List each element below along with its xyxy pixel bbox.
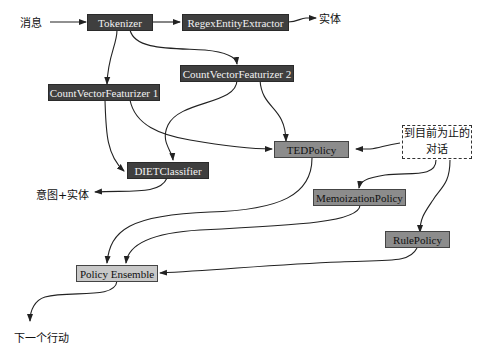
edge-conversation-ted (356, 143, 400, 149)
conversation-line-2: 对话 (426, 142, 448, 158)
rule-policy-node: RulePolicy (385, 231, 450, 248)
regex-entity-extractor-node: RegexEntityExtractor (182, 14, 289, 31)
entities-label: 实体 (319, 10, 341, 26)
edge-conversation-rule (420, 160, 450, 232)
memoization-policy-node: MemoizationPolicy (313, 189, 406, 206)
policy-ensemble-node: Policy Ensemble (76, 265, 158, 282)
edge-tokenizer-cvf1 (107, 30, 117, 84)
count-vector-featurizer-1-node: CountVectorFeaturizer 1 (48, 84, 160, 101)
edge-ensemble-nextaction (30, 281, 117, 321)
message-label: 消息 (20, 14, 42, 30)
edge-diet-intent (95, 178, 167, 192)
conversation-so-far-node: 到目前为止的 对话 (402, 125, 472, 159)
tokenizer-node: Tokenizer (87, 14, 153, 31)
conversation-line-1: 到目前为止的 (404, 126, 470, 142)
edge-cvf1-diet (105, 100, 124, 171)
edge-conversation-memo (359, 160, 436, 188)
ted-policy-node: TEDPolicy (274, 141, 349, 158)
edge-tokenizer-cvf2 (130, 30, 237, 64)
edge-memo-ensemble (126, 205, 360, 263)
edges-layer (0, 0, 485, 353)
edge-cvf2-diet (165, 80, 237, 160)
intent-entities-label: 意图+实体 (36, 186, 89, 202)
edge-cvf1-ted (130, 100, 272, 149)
edge-rule-ensemble (160, 248, 417, 273)
next-action-label: 下一个行动 (14, 329, 69, 345)
edge-regex-entities (288, 18, 316, 22)
diet-classifier-node: DIETClassifier (127, 162, 209, 179)
count-vector-featurizer-2-node: CountVectorFeaturizer 2 (180, 65, 294, 82)
pipeline-diagram: 消息 Tokenizer RegexEntityExtractor 实体 Cou… (0, 0, 485, 353)
edge-cvf2-ted (260, 80, 286, 141)
